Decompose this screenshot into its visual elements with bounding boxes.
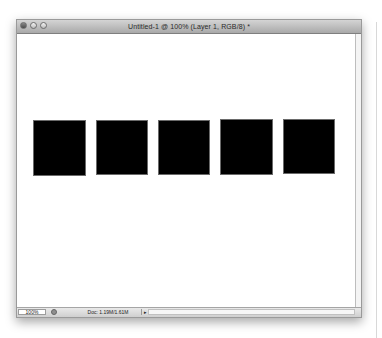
adjacent-panel-edge <box>376 22 377 338</box>
status-bar: 100% Doc: 1.19M/1.61M ▸ <box>17 307 361 317</box>
status-info-icon[interactable] <box>51 309 57 315</box>
black-square-4[interactable] <box>220 119 273 175</box>
title-bar[interactable]: Untitled-1 @ 100% (Layer 1, RGB/8) * <box>17 20 361 34</box>
black-square-2[interactable] <box>96 120 148 175</box>
document-size-info: Doc: 1.19M/1.61M <box>77 308 139 316</box>
window-title: Untitled-1 @ 100% (Layer 1, RGB/8) * <box>17 21 361 32</box>
black-square-5[interactable] <box>283 119 335 174</box>
document-window: Untitled-1 @ 100% (Layer 1, RGB/8) * 100… <box>16 19 362 318</box>
black-square-3[interactable] <box>158 120 210 175</box>
status-menu-arrow-icon[interactable]: ▸ <box>141 309 148 315</box>
horizontal-scrollbar[interactable] <box>148 309 355 315</box>
zoom-level-field[interactable]: 100% <box>18 309 46 315</box>
document-canvas[interactable] <box>17 34 357 309</box>
vertical-scrollbar[interactable] <box>355 34 361 309</box>
black-square-1[interactable] <box>33 120 86 176</box>
